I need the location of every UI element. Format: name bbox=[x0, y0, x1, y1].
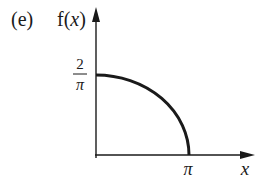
y-axis-arrow-icon bbox=[92, 7, 100, 22]
x-axis-label: x bbox=[240, 158, 250, 179]
panel-label: (e) bbox=[11, 8, 33, 31]
y-axis-label: f(x) bbox=[57, 8, 86, 31]
y-tick-numerator: 2 bbox=[76, 56, 84, 72]
figure-canvas: (e) f(x) 2 π π x bbox=[0, 0, 258, 180]
function-curve bbox=[96, 75, 189, 155]
x-tick-pi: π bbox=[183, 159, 193, 179]
y-tick-denominator: π bbox=[76, 76, 85, 93]
